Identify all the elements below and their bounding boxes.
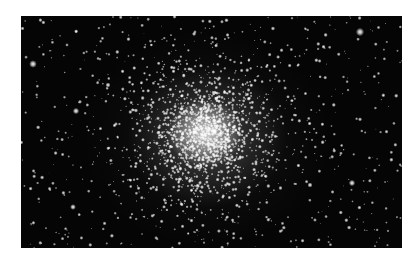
star-field: [21, 16, 402, 248]
star-cluster-photo: [21, 16, 402, 248]
